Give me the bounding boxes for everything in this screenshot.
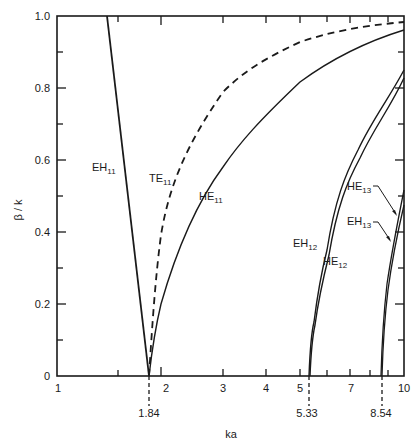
- xtick-label-3: 3: [220, 382, 226, 394]
- xtick-label-7: 7: [348, 382, 354, 394]
- curve-te11: [149, 22, 404, 376]
- curves: [107, 16, 404, 376]
- plot-frame: [57, 16, 404, 376]
- ytick-label-0.6: 0.6: [35, 154, 50, 166]
- label-eh11: EH11: [92, 161, 116, 176]
- ytick-label-0.8: 0.8: [35, 82, 50, 94]
- dispersion-chart: 0 0.2 0.4 0.6 0.8 1.0 1 2 3 4 5 7 10 1.8…: [0, 0, 420, 444]
- ytick-label-0.2: 0.2: [35, 298, 50, 310]
- xtick-label-2: 2: [163, 382, 169, 394]
- curve-he11: [149, 30, 404, 376]
- label-eh13: EH13: [347, 215, 372, 230]
- label-he12: HE12: [323, 255, 348, 270]
- cutoff-label-5.33: 5.33: [296, 407, 317, 419]
- ytick-label-0: 0: [44, 370, 50, 382]
- xtick-label-5: 5: [297, 382, 303, 394]
- x-axis-title: ka: [225, 428, 238, 440]
- curve-eh13: [382, 205, 404, 376]
- xtick-label-1: 1: [55, 382, 61, 394]
- cutoff-label-1.84: 1.84: [138, 407, 159, 419]
- curve-he12: [310, 78, 404, 376]
- xtick-label-10: 10: [398, 382, 410, 394]
- ytick-label-0.4: 0.4: [35, 226, 50, 238]
- xtick-label-4: 4: [263, 382, 269, 394]
- x-ticks-top: [118, 16, 388, 25]
- label-te11: TE11: [149, 172, 172, 187]
- label-he13: HE13: [347, 180, 372, 195]
- cutoff-label-8.54: 8.54: [370, 407, 391, 419]
- y-ticks-left: [57, 52, 66, 340]
- label-eh12: EH12: [293, 237, 318, 252]
- y-axis-title: β / k: [12, 199, 24, 220]
- label-leaders: [373, 186, 396, 240]
- label-he11: HE11: [199, 190, 223, 205]
- ytick-label-1.0: 1.0: [35, 10, 50, 22]
- x-ticks-bottom: [118, 367, 388, 376]
- curve-eh11: [107, 16, 149, 376]
